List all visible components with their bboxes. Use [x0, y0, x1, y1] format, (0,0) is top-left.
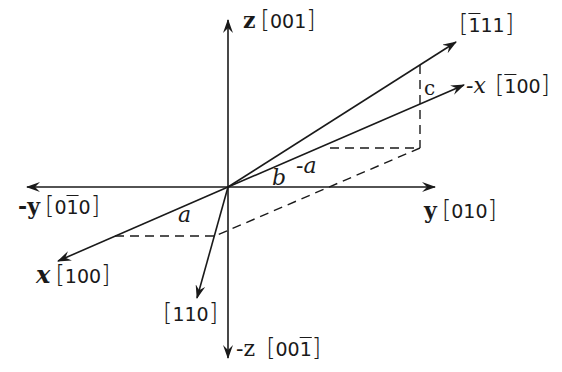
neg-x-axis-line [228, 85, 464, 187]
label-z-axis: z [001] [243, 8, 316, 32]
label-y-axis: y [010] [424, 198, 497, 222]
dir-110-line [197, 187, 228, 298]
label-neg-x-axis: -x [100] [466, 73, 550, 97]
label-neg-y-axis: -y [010] [18, 194, 100, 218]
angle-label-neg-a: -a [296, 155, 317, 177]
label-neg-z-axis: -z [001] [236, 336, 321, 360]
angle-label-b: b [272, 167, 286, 189]
angle-label-a-left: a [178, 204, 191, 226]
label-x-axis: x [100] [36, 263, 110, 287]
dashed-diagonal [215, 148, 420, 236]
label-dir-111: [111] [459, 12, 514, 36]
dir-111-line [228, 42, 456, 187]
label-dir-110: [110] [163, 301, 218, 325]
angle-label-c: c [424, 78, 435, 98]
